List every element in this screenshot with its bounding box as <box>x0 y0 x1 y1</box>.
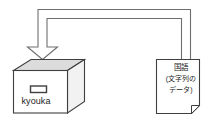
document-subtitle-line-1: (文字列の <box>157 73 205 84</box>
document-subtitle-line-2: データ) <box>157 84 205 95</box>
box-label: kyouka <box>0 97 72 106</box>
diagram-canvas: kyouka 国語 (文字列の データ) <box>0 0 217 127</box>
document-text-block: 国語 (文字列の データ) <box>157 62 205 95</box>
assignment-arrow <box>28 10 191 65</box>
document-title-text: 国語 <box>157 62 205 73</box>
